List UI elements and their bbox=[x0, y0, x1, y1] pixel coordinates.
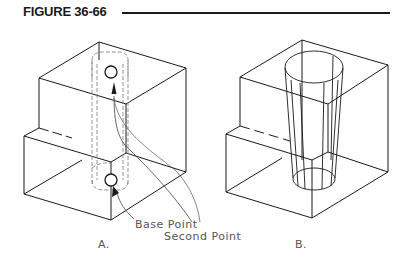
panel-b-label: B. bbox=[295, 238, 307, 251]
base-point-leader bbox=[112, 186, 134, 219]
base-point-circle bbox=[105, 174, 117, 186]
second-point-label: Second Point bbox=[164, 230, 241, 243]
panel-b-block bbox=[226, 40, 388, 218]
second-point-leader bbox=[114, 98, 200, 222]
panel-b-cone bbox=[285, 51, 343, 190]
second-point-circle bbox=[105, 66, 117, 78]
figure-drawing bbox=[0, 0, 408, 264]
panel-a-block bbox=[24, 42, 186, 220]
panel-a-label: A. bbox=[98, 238, 110, 251]
